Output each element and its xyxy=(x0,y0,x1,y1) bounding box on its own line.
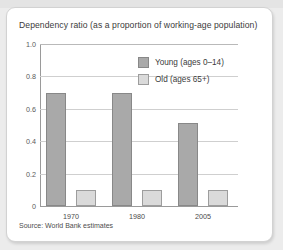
legend-swatch-young-icon xyxy=(138,57,149,68)
y-axis-tick-label: 0.2 xyxy=(10,169,36,178)
legend-item-young: Young (ages 0–14) xyxy=(138,57,224,68)
screenshot-root: Dependency ratio (as a proportion of wor… xyxy=(0,0,283,250)
legend-label-young: Young (ages 0–14) xyxy=(155,58,224,67)
y-axis-tick-label: 0 xyxy=(10,202,36,211)
y-axis-tick-label: 1.0 xyxy=(10,40,36,49)
y-axis-tick-label: 0.4 xyxy=(10,137,36,146)
bar-old-2005 xyxy=(208,190,228,206)
x-axis-tick-label: 1980 xyxy=(129,212,145,221)
gridline xyxy=(40,206,238,207)
bar-young-2005 xyxy=(178,123,198,206)
plot-wrapper: 1.00.80.60.40.20197019802005 xyxy=(7,8,272,241)
bar-young-1970 xyxy=(46,93,66,206)
legend-swatch-old-icon xyxy=(138,74,149,85)
y-axis-tick-label: 0.8 xyxy=(10,72,36,81)
bar-young-1980 xyxy=(112,93,132,206)
chart-legend: Young (ages 0–14) Old (ages 65+) xyxy=(138,57,224,91)
y-axis-tick-label: 0.6 xyxy=(10,104,36,113)
legend-label-old: Old (ages 65+) xyxy=(155,75,209,84)
chart-source: Source: World Bank estimates xyxy=(19,222,113,229)
legend-item-old: Old (ages 65+) xyxy=(138,74,224,85)
x-axis-tick-label: 1970 xyxy=(63,212,79,221)
chart-card: Dependency ratio (as a proportion of wor… xyxy=(6,7,273,242)
x-axis-tick-label: 2005 xyxy=(195,212,211,221)
gridline xyxy=(40,109,238,110)
gridline xyxy=(40,174,238,175)
gridline xyxy=(40,141,238,142)
bar-old-1970 xyxy=(76,190,96,206)
bar-old-1980 xyxy=(142,190,162,206)
gridline xyxy=(40,44,238,45)
